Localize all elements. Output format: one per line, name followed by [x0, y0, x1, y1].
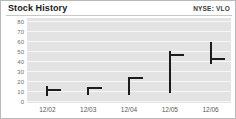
- x-axis-labels: 12/0212/0312/0412/0512/06: [27, 106, 231, 118]
- y-axis-tick-label: 60: [17, 39, 24, 45]
- ohlc-close-tick: [171, 54, 184, 56]
- y-axis-tick-label: 50: [17, 49, 24, 55]
- x-axis-tick-label: 12/04: [121, 106, 137, 113]
- gridline: [27, 71, 231, 72]
- ticker-symbol-label: NYSE: VLO: [193, 5, 230, 12]
- gridline: [27, 21, 231, 22]
- y-axis-tick-label: 10: [17, 89, 24, 95]
- y-axis-tick-label: 20: [17, 79, 24, 85]
- header-divider: [6, 15, 232, 16]
- ohlc-close-tick: [89, 87, 102, 89]
- x-axis-tick-label: 12/03: [80, 106, 96, 113]
- y-axis-tick-label: 80: [17, 19, 24, 25]
- y-axis-tick-label: 70: [17, 29, 24, 35]
- ohlc-close-tick: [130, 77, 143, 79]
- ohlc-close-tick: [212, 58, 225, 60]
- y-axis-tick-label: 30: [17, 69, 24, 75]
- gridline: [27, 61, 231, 62]
- y-axis-labels: 80706050403020100: [1, 18, 27, 108]
- ohlc-close-tick: [48, 89, 61, 91]
- x-axis-tick-label: 12/06: [202, 106, 218, 113]
- ohlc-bar-stem: [46, 86, 48, 96]
- x-axis-tick-label: 12/02: [39, 106, 55, 113]
- stock-history-widget: Stock History NYSE: VLO 8070605040302010…: [0, 0, 236, 119]
- ohlc-bar-stem: [128, 77, 130, 95]
- page-title: Stock History: [8, 3, 67, 13]
- chart-area: 80706050403020100 12/0212/0312/0412/0512…: [1, 18, 236, 119]
- plot-canvas: [27, 18, 231, 103]
- gridline: [27, 101, 231, 102]
- widget-header: Stock History NYSE: VLO: [1, 1, 236, 18]
- y-axis-tick-label: 40: [17, 59, 24, 65]
- y-axis-tick-label: 0: [21, 99, 24, 105]
- gridline: [27, 41, 231, 42]
- gridline: [27, 51, 231, 52]
- gridline: [27, 31, 231, 32]
- x-axis-tick-label: 12/05: [162, 106, 178, 113]
- ohlc-bar-stem: [169, 51, 171, 93]
- ohlc-bar-stem: [210, 42, 212, 64]
